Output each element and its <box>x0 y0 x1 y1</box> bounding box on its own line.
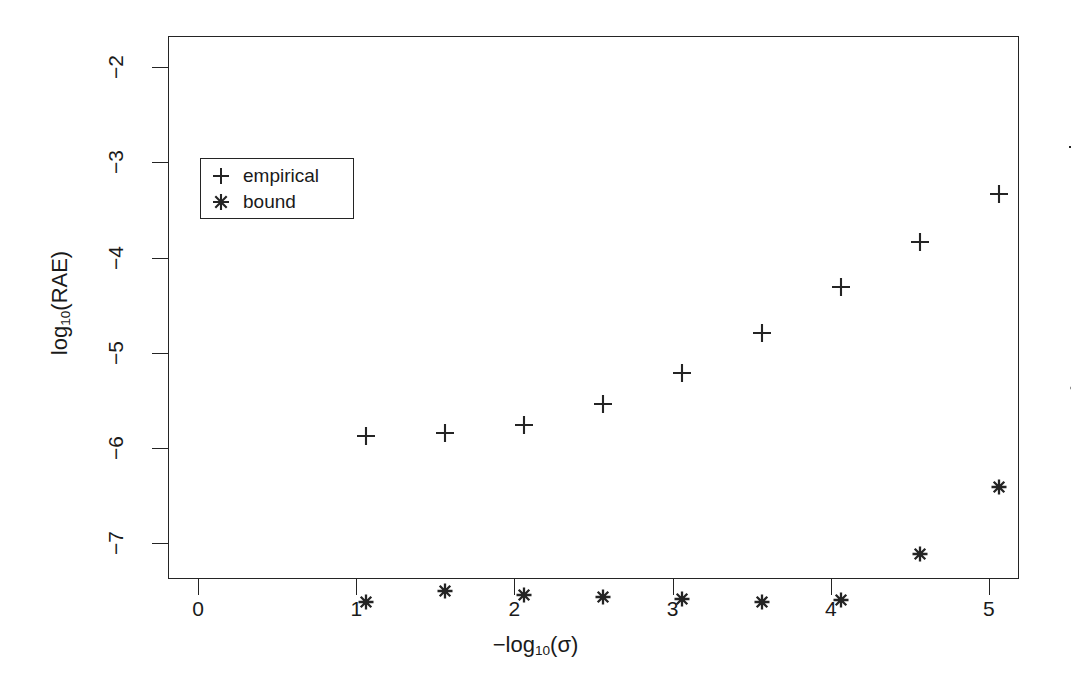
x-axis-title: −log10(σ) <box>0 632 1071 658</box>
y-tick-mark <box>152 448 169 449</box>
legend-label-bound: bound <box>243 191 296 213</box>
legend-entry-empirical: empirical <box>211 163 319 189</box>
x-tick-label: 3 <box>648 597 698 621</box>
plot-frame <box>168 36 1019 579</box>
y-axis-title-base: log <box>47 326 72 355</box>
legend-label-empirical: empirical <box>243 165 319 187</box>
legend-box: empirical bound <box>200 158 354 219</box>
y-tick-mark <box>152 353 169 354</box>
asterisk-marker-icon <box>211 192 231 212</box>
y-tick-label: −6 <box>100 428 132 468</box>
y-axis-title-subscript: 10 <box>58 311 73 326</box>
y-tick-label: −3 <box>100 142 132 182</box>
x-tick-label: 4 <box>806 597 856 621</box>
x-tick-mark <box>989 579 990 595</box>
plus-marker-icon <box>211 166 231 186</box>
y-tick-label: −2 <box>100 47 132 87</box>
x-axis-title-tail: (σ) <box>550 632 578 657</box>
y-tick-mark <box>152 67 169 68</box>
legend-entry-bound: bound <box>211 189 296 215</box>
x-tick-label: 0 <box>173 597 223 621</box>
y-axis-title-tail: (RAE) <box>47 251 72 311</box>
x-tick-label: 2 <box>489 597 539 621</box>
y-tick-label: −7 <box>100 523 132 563</box>
x-tick-mark <box>673 579 674 595</box>
x-axis-title-subscript: 10 <box>535 643 550 658</box>
y-tick-label: −5 <box>100 333 132 373</box>
y-tick-mark <box>152 543 169 544</box>
y-tick-mark <box>152 162 169 163</box>
x-tick-mark <box>356 579 357 595</box>
x-tick-label: 5 <box>964 597 1014 621</box>
y-axis-title: log10(RAE) <box>47 203 73 403</box>
x-tick-mark <box>198 579 199 595</box>
x-tick-mark <box>514 579 515 595</box>
scatter-plot-figure: −2−3−4−5−6−7 012345 log10(RAE) −log10(σ)… <box>0 0 1071 687</box>
x-axis-title-base: −log <box>493 632 535 657</box>
y-tick-mark <box>152 258 169 259</box>
y-tick-label: −4 <box>100 238 132 278</box>
x-tick-label: 1 <box>331 597 381 621</box>
x-tick-mark <box>831 579 832 595</box>
